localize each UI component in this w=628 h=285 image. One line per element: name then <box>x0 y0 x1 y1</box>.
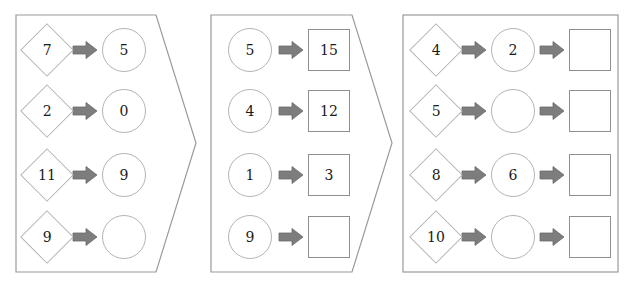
right-block-arrow-icon <box>539 40 565 60</box>
diamond-value: 10 <box>427 230 445 244</box>
diamond-node[interactable]: 8 <box>409 148 463 202</box>
diamond-value: 4 <box>432 43 441 57</box>
circle-node[interactable]: 2 <box>491 28 535 72</box>
right-block-arrow-icon <box>539 165 565 185</box>
diamond-node[interactable]: 5 <box>409 84 463 138</box>
square-node-empty[interactable] <box>569 90 611 132</box>
right-block-arrow-icon <box>461 165 487 185</box>
diamond-value: 5 <box>432 104 441 118</box>
square-node-empty[interactable] <box>569 216 611 258</box>
square-node-empty[interactable] <box>569 29 611 71</box>
circle-value: 6 <box>509 168 518 182</box>
diamond-node[interactable]: 4 <box>409 23 463 77</box>
right-block-arrow-icon <box>539 227 565 247</box>
diamond-value: 8 <box>432 168 441 182</box>
circle-value: 2 <box>509 43 518 57</box>
circle-node[interactable]: 6 <box>491 153 535 197</box>
circle-node-empty[interactable] <box>491 89 535 133</box>
panel-3-row-3: 8 6 <box>417 149 611 201</box>
diagram-canvas: 7 5 2 0 11 <box>0 0 628 285</box>
circle-node-empty[interactable] <box>491 215 535 259</box>
panel-3: 4 2 5 <box>0 0 628 285</box>
panel-3-row-4: 10 <box>417 211 611 263</box>
panel-3-row-2: 5 <box>417 85 611 137</box>
panel-3-row-1: 4 2 <box>417 24 611 76</box>
right-block-arrow-icon <box>461 227 487 247</box>
right-block-arrow-icon <box>461 101 487 121</box>
right-block-arrow-icon <box>461 40 487 60</box>
diamond-node[interactable]: 10 <box>409 210 463 264</box>
right-block-arrow-icon <box>539 101 565 121</box>
square-node-empty[interactable] <box>569 154 611 196</box>
